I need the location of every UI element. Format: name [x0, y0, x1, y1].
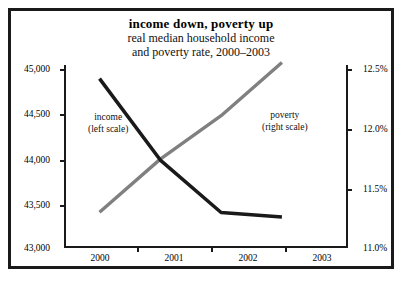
income-line-series [100, 79, 282, 217]
annotation-poverty-line-2: (right scale) [262, 121, 308, 133]
x-axis-label-2001: 2001 [165, 248, 184, 263]
left-axis-label-44500: 44,500 [24, 109, 52, 119]
right-axis-label-11-0: 11.0% [360, 243, 387, 253]
right-axis-label-11-5: 11.5% [360, 184, 387, 194]
chart-subtitle-line-2: and poverty rate, 2000–2003 [11, 45, 391, 59]
right-axis-tick-12-5 [346, 69, 352, 71]
x-axis-tick-2003 [285, 246, 287, 252]
plot-area: 45,000 44,500 44,000 43,500 43,000 12.5%… [64, 65, 348, 248]
annotation-poverty: poverty (right scale) [262, 109, 308, 133]
right-axis-tick-12-0 [346, 129, 352, 131]
right-axis-tick-11-5 [346, 189, 352, 191]
chart-subtitle-line-1: real median household income [11, 31, 391, 45]
annotation-income: income (left scale) [88, 111, 128, 135]
x-axis-tick-2002 [211, 246, 213, 252]
left-axis-label-44000: 44,000 [24, 155, 52, 165]
left-axis-label-43500: 43,500 [24, 200, 52, 210]
chart-title: income down, poverty up [11, 16, 391, 31]
annotation-income-line-1: income [88, 111, 128, 123]
right-axis-label-12-0: 12.0% [360, 124, 388, 134]
figure-panel: income down, poverty up real median hous… [8, 8, 394, 269]
x-axis-tick-2001 [137, 246, 139, 252]
left-axis-label-45000: 45,000 [24, 64, 52, 74]
annotation-income-line-2: (left scale) [88, 123, 128, 135]
series-plot [66, 65, 346, 246]
annotation-poverty-line-1: poverty [262, 109, 308, 121]
poverty-line-series [100, 63, 282, 213]
x-axis-label-2000: 2000 [91, 248, 110, 263]
x-axis-label-2003: 2003 [313, 248, 332, 263]
title-block: income down, poverty up real median hous… [11, 16, 391, 59]
left-axis-label-43000: 43,000 [24, 243, 52, 253]
x-axis-label-2002: 2002 [239, 248, 258, 263]
right-axis-label-12-5: 12.5% [360, 64, 388, 74]
